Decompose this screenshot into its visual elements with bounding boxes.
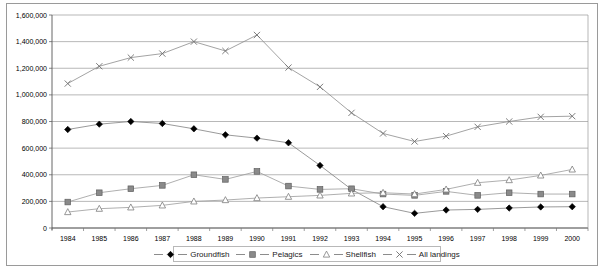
x-axis-tick-label: 1996 [438,235,454,242]
marker-diamond [411,210,417,216]
x-axis-tick-label: 1988 [186,235,202,242]
y-axis-tick-label: 800,000 [22,118,47,125]
marker-square [506,190,512,196]
marker-square [160,183,166,189]
marker-diamond [191,126,197,132]
x-axis-tick-label: 1986 [123,235,139,242]
marker-diamond [128,118,134,124]
legend-line-left [154,254,163,255]
marker-diamond [474,206,480,212]
chart-plot: 0200,000400,000600,000800,0001,000,0001,… [0,0,612,274]
legend-label: All landings [419,250,460,259]
legend-line-right [260,254,269,255]
marker-square [223,177,229,183]
y-axis-tick-label: 1,000,000 [16,91,47,98]
x-axis-tick-label: 1985 [92,235,108,242]
marker-square [569,191,575,197]
legend-entry-pelagics[interactable]: Pelagics [236,250,302,259]
y-axis-tick-label: 1,200,000 [16,65,47,72]
marker-diamond [506,205,512,211]
marker-diamond [285,140,291,146]
marker-square [128,186,134,192]
series-pelagics [65,169,575,205]
marker-square [475,193,481,199]
x-axis-tick-label: 1997 [470,235,486,242]
x-axis-tick-label: 1987 [155,235,171,242]
legend-label: Shellfish [346,250,376,259]
y-axis-tick-label: 400,000 [22,171,47,178]
marker-diamond [538,204,544,210]
x-axis-tick-label: 1991 [281,235,297,242]
x-axis-tick-label: 1993 [344,235,360,242]
y-axis-tick-label: 200,000 [22,198,47,205]
legend-label: Groundfish [190,250,229,259]
x-axis-tick-label: 1998 [501,235,517,242]
series-groundfish [65,118,576,216]
series-line [68,35,572,142]
legend-marker-diamond-icon [166,250,175,259]
marker-square [65,199,71,205]
marker-square [538,191,544,197]
legend-marker-square-icon [248,250,257,259]
marker-triangle [569,166,575,172]
marker-diamond [96,121,102,127]
series-all-landings [65,32,576,145]
x-axis-tick-label: 1984 [60,235,76,242]
marker-square [191,172,197,178]
marker-diamond [222,132,228,138]
chart-legend: GroundfishPelagicsShellfishAll landings [173,246,441,262]
marker-square [286,183,292,189]
legend-marker-x-icon [395,250,404,259]
legend-line-left [310,254,319,255]
marker-diamond [254,135,260,141]
x-axis-tick-label: 1990 [249,235,265,242]
x-axis-tick-label: 1994 [375,235,391,242]
y-axis-tick-label: 0 [43,225,47,232]
chart-svg: 0200,000400,000600,000800,0001,000,0001,… [0,0,612,274]
marker-diamond [65,126,71,132]
marker-diamond [317,162,323,168]
marker-diamond [443,207,449,213]
marker-diamond [380,204,386,210]
legend-line-left [383,254,392,255]
legend-label: Pelagics [272,250,302,259]
y-axis-tick-label: 1,600,000 [16,12,47,19]
legend-entry-all-landings[interactable]: All landings [383,250,460,259]
marker-triangle [323,251,329,257]
legend-line-left [236,254,245,255]
legend-line-right [334,254,343,255]
x-axis-tick-label: 2000 [564,235,580,242]
marker-diamond [168,251,174,257]
y-axis-tick-label: 1,400,000 [16,38,47,45]
marker-square [96,190,102,196]
legend-entry-shellfish[interactable]: Shellfish [310,250,376,259]
marker-square [254,169,260,175]
legend-items: GroundfishPelagicsShellfishAll landings [174,247,440,261]
legend-marker-triangle-icon [322,250,331,259]
x-axis-tick-label: 1989 [218,235,234,242]
marker-diamond [569,204,575,210]
y-axis-tick-label: 600,000 [22,145,47,152]
legend-entry-groundfish[interactable]: Groundfish [154,250,229,259]
x-axis-tick-label: 1992 [312,235,328,242]
legend-line-right [407,254,416,255]
legend-line-right [178,254,187,255]
x-axis-tick-label: 1999 [533,235,549,242]
marker-square [250,251,256,257]
x-axis-tick-label: 1995 [407,235,423,242]
